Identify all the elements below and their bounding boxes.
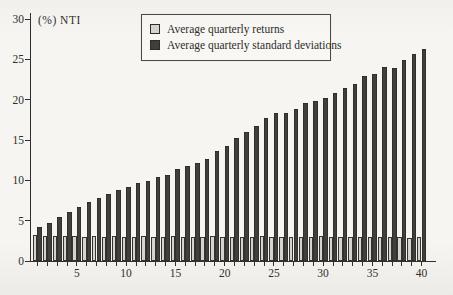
x-minor-tick	[293, 262, 294, 266]
bar-stddev	[47, 223, 52, 261]
y-tick-label: 0	[0, 254, 24, 268]
bar-stddev	[244, 132, 249, 261]
x-tick-label: 25	[262, 266, 286, 280]
bar-stddev	[264, 118, 269, 261]
bar-stddev	[313, 101, 318, 262]
x-minor-tick	[401, 262, 402, 266]
bar-stddev	[382, 67, 387, 261]
bar-stddev	[165, 175, 170, 261]
x-minor-tick	[96, 262, 97, 266]
y-axis	[30, 13, 31, 262]
bar-stddev	[126, 187, 131, 261]
y-tick-label: 25	[0, 52, 24, 66]
y-axis-title: (%) NTI	[38, 14, 81, 26]
bar-stddev	[106, 194, 111, 261]
chart-figure: (%) NTI Average quarterly returns Averag…	[0, 0, 453, 295]
x-minor-tick	[204, 262, 205, 266]
x-minor-tick	[392, 262, 393, 266]
y-tick-label: 30	[0, 12, 24, 26]
y-tick-label: 15	[0, 133, 24, 147]
bar-stddev	[362, 76, 367, 261]
bar-stddev	[215, 151, 220, 261]
legend-item-returns: Average quarterly returns	[150, 22, 322, 36]
legend-label-stddev: Average quarterly standard deviations	[167, 38, 341, 52]
bar-stddev	[136, 183, 141, 261]
y-tick	[25, 220, 30, 221]
x-axis	[30, 261, 436, 262]
bar-stddev	[205, 159, 210, 261]
bar-stddev	[116, 190, 121, 261]
bar-stddev	[57, 217, 62, 261]
legend-label-returns: Average quarterly returns	[167, 22, 284, 36]
bar-stddev	[402, 60, 407, 261]
x-minor-tick	[352, 262, 353, 266]
y-tick-label: 10	[0, 173, 24, 187]
y-tick	[25, 59, 30, 60]
x-tick-label: 5	[65, 266, 89, 280]
bar-stddev	[175, 169, 180, 261]
x-minor-tick	[155, 262, 156, 266]
bar-stddev	[333, 93, 338, 261]
x-tick-label: 35	[360, 266, 384, 280]
x-minor-tick	[145, 262, 146, 266]
bar-stddev	[392, 68, 397, 261]
bar-stddev	[274, 113, 279, 261]
x-minor-tick	[244, 262, 245, 266]
bar-stddev	[234, 138, 239, 261]
x-minor-tick	[195, 262, 196, 266]
legend-item-stddev: Average quarterly standard deviations	[150, 38, 322, 52]
bar-stddev	[77, 207, 82, 261]
bar-stddev	[412, 54, 417, 261]
x-tick-label: 40	[410, 266, 434, 280]
bar-stddev	[195, 163, 200, 261]
x-tick-label: 15	[163, 266, 187, 280]
x-minor-tick	[57, 262, 58, 266]
bar-stddev	[67, 212, 72, 261]
bar-stddev	[254, 126, 259, 261]
x-tick-label: 30	[311, 266, 335, 280]
y-tick	[25, 261, 30, 262]
bar-stddev	[422, 49, 427, 261]
y-tick	[25, 99, 30, 100]
bar-stddev	[146, 181, 151, 261]
legend: Average quarterly returns Average quarte…	[141, 14, 331, 61]
y-tick	[25, 180, 30, 181]
y-tick	[25, 19, 30, 20]
bar-stddev	[323, 98, 328, 261]
x-minor-tick	[37, 262, 38, 266]
y-tick-label: 5	[0, 214, 24, 228]
legend-swatch-returns-icon	[150, 24, 160, 34]
bar-stddev	[284, 113, 289, 261]
x-tick-label: 20	[213, 266, 237, 280]
bar-stddev	[372, 74, 377, 261]
bar-stddev	[294, 109, 299, 261]
x-minor-tick	[342, 262, 343, 266]
bar-stddev	[185, 166, 190, 261]
bar-stddev	[343, 88, 348, 261]
x-minor-tick	[303, 262, 304, 266]
bar-stddev	[87, 202, 92, 261]
legend-swatch-stddev-icon	[150, 40, 160, 50]
x-minor-tick	[106, 262, 107, 266]
x-minor-tick	[254, 262, 255, 266]
bar-stddev	[353, 84, 358, 262]
bar-stddev	[37, 227, 42, 261]
x-tick-label: 10	[114, 266, 138, 280]
bar-stddev	[225, 146, 230, 261]
y-tick	[25, 140, 30, 141]
bar-stddev	[303, 103, 308, 261]
y-tick-label: 20	[0, 93, 24, 107]
x-minor-tick	[47, 262, 48, 266]
bar-stddev	[156, 177, 161, 261]
bar-stddev	[97, 198, 102, 261]
